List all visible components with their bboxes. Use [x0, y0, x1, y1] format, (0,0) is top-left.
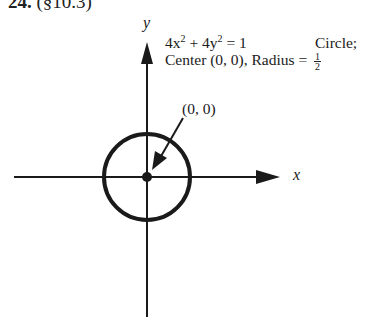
radius-denominator: 2: [314, 62, 321, 71]
center-point: [142, 172, 152, 182]
y-axis-arrow-icon: [141, 42, 153, 64]
x-axis-label: x: [293, 166, 300, 184]
x-axis-arrow-icon: [256, 170, 280, 184]
equation-term-b: + 4y: [186, 34, 218, 51]
origin-label: (0, 0): [182, 100, 216, 118]
equation-rhs: = 1: [223, 34, 247, 51]
equation-line: 4x2 + 4y2 = 1 Circle;: [165, 34, 321, 51]
center-radius-line: Center (0, 0), Radius = 12: [165, 51, 321, 71]
y-axis-label: y: [143, 14, 150, 32]
curve-type: Circle;: [315, 34, 357, 51]
center-radius-text: Center (0, 0), Radius =: [165, 51, 311, 68]
equation-annotation: 4x2 + 4y2 = 1 Circle; Center (0, 0), Rad…: [165, 34, 321, 71]
radius-fraction: 12: [314, 52, 321, 71]
equation-term-a: 4x: [165, 34, 181, 51]
pointer-arrow-icon: [152, 151, 167, 170]
